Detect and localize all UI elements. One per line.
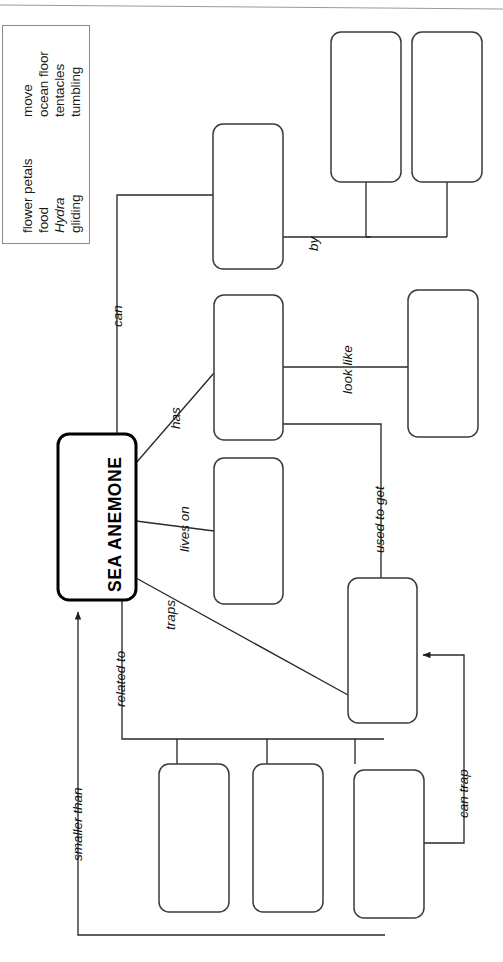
- link-label-related-to: related to: [113, 651, 128, 707]
- answer-box-can[interactable]: [213, 124, 283, 269]
- word-bank-item-tumbling: tumbling: [68, 67, 83, 117]
- connector-can: [117, 195, 213, 434]
- word-bank-item-food: food: [36, 207, 51, 233]
- link-label-traps: traps: [163, 600, 178, 630]
- word-bank-item-tentacles: tentacles: [52, 64, 67, 117]
- word-bank-item-flower-petals: flower petals: [20, 159, 35, 234]
- link-label-has: has: [168, 407, 183, 429]
- answer-box-lives-on[interactable]: [214, 458, 283, 604]
- connector-related-to: [122, 600, 384, 739]
- link-label-by: by: [306, 237, 321, 251]
- connector-used-to-get: [283, 424, 381, 578]
- link-label-look-like: look like: [340, 345, 355, 394]
- answer-box-look-like[interactable]: [408, 290, 478, 437]
- link-label-lives-on: lives on: [177, 506, 192, 552]
- answer-box-bottom-1[interactable]: [159, 764, 229, 912]
- answer-box-used-to-get[interactable]: [348, 578, 417, 723]
- link-label-used-to-get: used to get: [372, 486, 387, 553]
- page-top-edge: [0, 5, 503, 9]
- link-label-can-trap: can trap: [456, 769, 471, 818]
- answer-box-by-upper[interactable]: [331, 32, 401, 182]
- answer-box-group: [159, 32, 482, 918]
- worksheet-page: SEA ANEMONE can by has look like lives o…: [0, 0, 503, 962]
- word-bank-item-ocean-floor: ocean floor: [36, 51, 51, 117]
- center-node-label: SEA ANEMONE: [105, 456, 126, 592]
- answer-box-has[interactable]: [214, 295, 283, 440]
- connector-lives-on: [136, 521, 214, 531]
- link-label-can: can: [110, 305, 125, 327]
- answer-box-bottom-3[interactable]: [354, 770, 424, 918]
- link-label-smaller-than: smaller than: [70, 787, 85, 861]
- word-bank-item-hydra: Hydra: [52, 197, 67, 233]
- word-bank-item-move: move: [20, 84, 35, 117]
- answer-box-bottom-2[interactable]: [253, 764, 323, 912]
- answer-box-by-lower[interactable]: [412, 32, 482, 182]
- word-bank-item-gliding: gliding: [68, 195, 83, 233]
